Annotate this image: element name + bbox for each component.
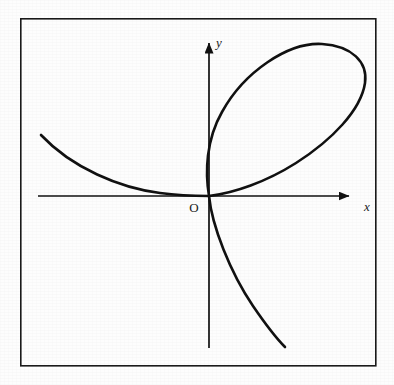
y-axis-label: y bbox=[214, 35, 222, 50]
plot-background bbox=[0, 0, 394, 385]
curve-figure: O x y bbox=[0, 0, 394, 385]
figure-container: O x y bbox=[0, 0, 394, 385]
origin-label: O bbox=[189, 200, 198, 215]
x-axis-label: x bbox=[363, 199, 370, 214]
